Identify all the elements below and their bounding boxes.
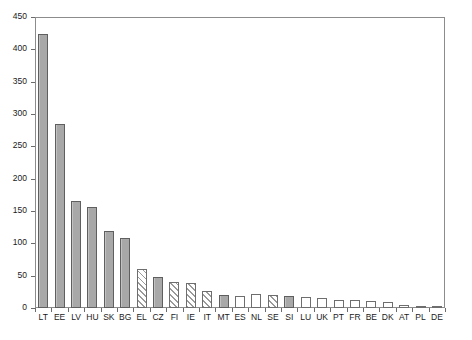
bar-si <box>284 296 294 308</box>
x-axis-tick-label: NL <box>248 311 264 331</box>
x-axis-tick-mark <box>232 308 233 312</box>
bar-fr <box>350 300 360 308</box>
y-axis-tick-label: 300 <box>13 108 27 119</box>
bar-it <box>202 291 212 308</box>
bar-slot <box>68 17 84 308</box>
x-axis-tick-label: SI <box>281 311 297 331</box>
y-axis-tick-label: 150 <box>13 205 27 216</box>
x-axis-tick-label: DK <box>380 311 396 331</box>
bar-lv <box>71 201 81 308</box>
x-axis-tick-mark <box>101 308 102 312</box>
y-axis: 050100150200250300350400450 <box>0 0 35 340</box>
bar-ie <box>186 283 196 308</box>
x-axis-tick-label: UK <box>314 311 330 331</box>
y-axis-tick-label: 450 <box>13 11 27 22</box>
bar-slot <box>35 17 51 308</box>
bar-slot <box>183 17 199 308</box>
bar-pl <box>416 306 426 308</box>
x-axis-tick-mark <box>265 308 266 312</box>
x-axis-tick-label: LT <box>35 311 51 331</box>
bar-uk <box>317 298 327 308</box>
x-axis-tick-label: IE <box>183 311 199 331</box>
bar-slot <box>265 17 281 308</box>
x-axis-tick-mark <box>248 308 249 312</box>
bar-lu <box>301 297 311 308</box>
bar-slot <box>232 17 248 308</box>
bar-hu <box>87 207 97 308</box>
bar-bg <box>120 238 130 308</box>
bar-slot <box>412 17 428 308</box>
bar-slot <box>199 17 215 308</box>
x-axis-labels: LTEELVHUSKBGELCZFIIEITMTESNLSESILUUKPTFR… <box>35 311 445 331</box>
bar-sk <box>104 231 114 308</box>
x-axis-tick-label: SK <box>101 311 117 331</box>
bar-dk <box>383 302 393 308</box>
bar-slot <box>347 17 363 308</box>
bar-slot <box>133 17 149 308</box>
x-axis-tick-mark <box>281 308 282 312</box>
x-axis-tick-mark <box>445 308 446 312</box>
y-axis-tick-label: 350 <box>13 76 27 87</box>
y-axis-tick-label: 250 <box>13 140 27 151</box>
y-axis-tick-label: 50 <box>18 270 27 281</box>
x-axis-tick-label: FR <box>347 311 363 331</box>
bar-slot <box>330 17 346 308</box>
y-axis-tick-label: 400 <box>13 43 27 54</box>
bar-ee <box>55 124 65 308</box>
bar-slot <box>101 17 117 308</box>
bar-se <box>268 295 278 308</box>
x-axis-tick-mark <box>396 308 397 312</box>
bar-slot <box>298 17 314 308</box>
bar-de <box>432 306 442 308</box>
bar-at <box>399 305 409 308</box>
bar-slot <box>248 17 264 308</box>
bar-slot <box>281 17 297 308</box>
bar-slot <box>314 17 330 308</box>
x-axis-tick-mark <box>35 308 36 312</box>
x-axis-tick-label: CZ <box>150 311 166 331</box>
bar-fi <box>169 282 179 309</box>
y-axis-tick-label: 0 <box>22 302 27 313</box>
bar-slot <box>166 17 182 308</box>
bar-slot <box>363 17 379 308</box>
x-axis-tick-mark <box>150 308 151 312</box>
bar-slot <box>429 17 445 308</box>
bar-slot <box>150 17 166 308</box>
bar-be <box>366 301 376 308</box>
x-axis-tick-mark <box>117 308 118 312</box>
x-axis-tick-label: LV <box>68 311 84 331</box>
x-axis-tick-mark <box>215 308 216 312</box>
bar-nl <box>251 294 261 308</box>
bar-slot <box>51 17 67 308</box>
bar-slot <box>117 17 133 308</box>
x-axis-tick-label: FI <box>166 311 182 331</box>
x-axis-tick-mark <box>84 308 85 312</box>
bar-cz <box>153 277 163 308</box>
x-axis-tick-label: ES <box>232 311 248 331</box>
x-axis-tick-mark <box>314 308 315 312</box>
x-axis-tick-mark <box>183 308 184 312</box>
bar-es <box>235 296 245 308</box>
x-axis-tick-label: EL <box>133 311 149 331</box>
x-axis-tick-mark <box>199 308 200 312</box>
x-axis-tick-mark <box>429 308 430 312</box>
bar-slot <box>84 17 100 308</box>
bar-lt <box>38 34 48 308</box>
x-axis-tick-label: SE <box>265 311 281 331</box>
x-axis-tick-mark <box>51 308 52 312</box>
x-axis-tick-mark <box>347 308 348 312</box>
x-axis-tick-mark <box>363 308 364 312</box>
bar-pt <box>334 300 344 308</box>
x-axis-tick-mark <box>330 308 331 312</box>
x-axis-tick-label: BE <box>363 311 379 331</box>
y-axis-tick-label: 200 <box>13 173 27 184</box>
bar-slot <box>215 17 231 308</box>
x-axis-tick-label: IT <box>199 311 215 331</box>
x-axis-tick-mark <box>379 308 380 312</box>
bar-mt <box>219 295 229 308</box>
x-axis-tick-label: MT <box>215 311 231 331</box>
bar-el <box>137 269 147 308</box>
x-axis-tick-mark <box>412 308 413 312</box>
x-axis-tick-mark <box>297 308 298 312</box>
x-axis-tick-label: PL <box>412 311 428 331</box>
